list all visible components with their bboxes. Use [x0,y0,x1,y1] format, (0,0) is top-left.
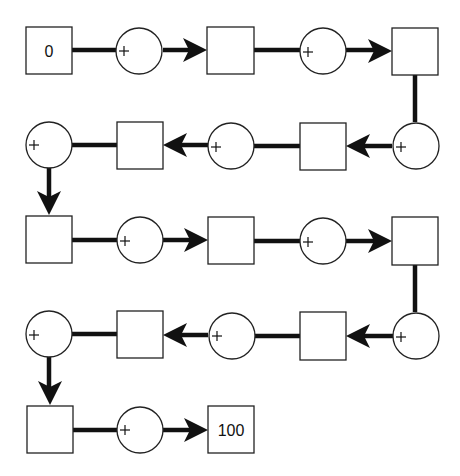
value-box[interactable] [27,406,73,453]
plus-node [393,123,439,169]
plus-node [300,28,346,74]
end-value-label: 100 [208,407,254,454]
plus-node [208,123,254,169]
plus-node [393,313,439,359]
plus-node [26,122,72,168]
value-box[interactable] [117,122,163,169]
value-box[interactable] [392,217,438,265]
plus-node [116,28,162,74]
plus-node [117,407,163,453]
value-box[interactable] [392,28,438,75]
plus-node [117,217,163,263]
value-box[interactable] [300,123,346,170]
plus-node [26,311,72,357]
value-box[interactable] [117,311,163,358]
plus-node [209,313,255,359]
start-value-label: 0 [26,28,72,75]
value-box[interactable] [300,312,346,360]
value-box[interactable] [207,27,254,74]
plus-node [300,218,346,264]
value-box[interactable] [26,216,72,263]
value-box[interactable] [208,217,254,264]
